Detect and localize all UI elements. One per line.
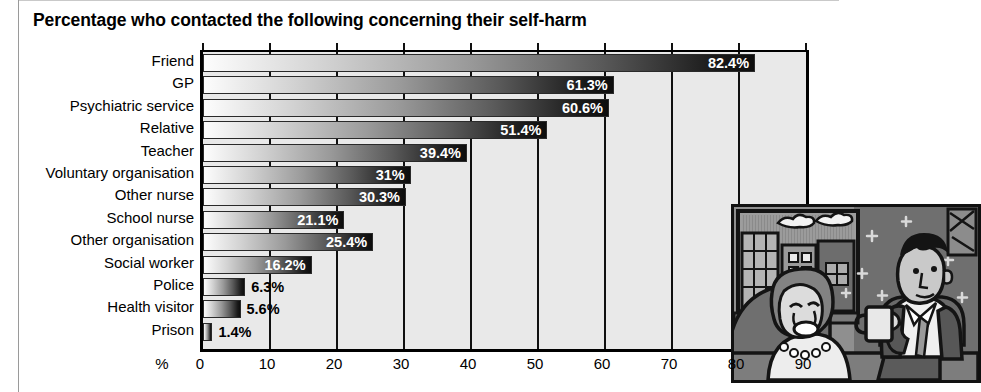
bar-row: 6.3% [203,278,806,296]
bar-value-label: 5.6% [247,300,280,318]
category-label-health-visitor: Health visitor [8,298,194,316]
bar-value-label: 21.1% [203,211,344,229]
axis-unit-label: % [142,355,182,372]
page-title: Percentage who contacted the following c… [33,10,587,31]
category-label-gp: GP [8,74,194,92]
bar-value-label: 16.2% [203,256,312,274]
bar-row: 61.3% [203,76,806,94]
bar-row: 82.4% [203,54,806,72]
plot-inner: 82.4%61.3%60.6%51.4%39.4%31%30.3%21.1%25… [203,52,806,349]
axis-tick-30 [403,43,405,50]
bar-row: 1.4% [203,323,806,341]
axis-tick-80 [738,43,740,50]
bar-value-label: 82.4% [203,54,755,72]
x-tick-label-40: 40 [448,355,488,372]
axis-tick-0 [202,43,204,50]
bar-value-label: 1.4% [218,323,251,341]
bar-prison [203,323,212,341]
category-axis-labels: FriendGPPsychiatric serviceRelativeTeach… [8,50,194,347]
x-tick-label-0: 0 [180,355,220,372]
bar-value-label: 30.3% [203,188,406,206]
category-label-other-nurse: Other nurse [8,186,194,204]
category-label-teacher: Teacher [8,142,194,160]
x-tick-label-30: 30 [381,355,421,372]
bar-health-visitor [203,300,241,318]
x-tick-label-50: 50 [515,355,555,372]
category-label-other-organisation: Other organisation [8,231,194,249]
x-tick-label-10: 10 [247,355,287,372]
axis-tick-50 [537,43,539,50]
bar-row: 39.4% [203,144,806,162]
category-label-friend: Friend [8,52,194,70]
bar-row: 25.4% [203,233,806,251]
axis-tick-20 [336,43,338,50]
x-tick-label-60: 60 [582,355,622,372]
bar-row: 31% [203,166,806,184]
plot-area: 82.4%61.3%60.6%51.4%39.4%31%30.3%21.1%25… [200,50,809,352]
x-tick-label-80: 80 [716,355,756,372]
bar-row: 60.6% [203,99,806,117]
bar-value-label: 39.4% [203,144,467,162]
x-tick-label-90: 90 [783,355,823,372]
bar-value-label: 25.4% [203,233,373,251]
bar-row: 5.6% [203,300,806,318]
category-label-psychiatric-service: Psychiatric service [8,97,194,115]
bar-value-label: 60.6% [203,99,609,117]
axis-tick-70 [671,43,673,50]
bar-row: 16.2% [203,256,806,274]
x-tick-label-20: 20 [314,355,354,372]
bar-row: 51.4% [203,121,806,139]
bar-police [203,278,245,296]
x-tick-label-70: 70 [649,355,689,372]
axis-tick-10 [269,43,271,50]
category-label-social-worker: Social worker [8,254,194,272]
axis-tick-90 [805,43,807,50]
category-label-relative: Relative [8,119,194,137]
category-label-voluntary-organisation: Voluntary organisation [8,164,194,182]
bar-row: 30.3% [203,188,806,206]
figure-top-rule [18,0,839,1]
category-label-police: Police [8,276,194,294]
bar-value-label: 51.4% [203,121,547,139]
category-label-prison: Prison [8,321,194,339]
value-axis-labels: % 0102030405060708090 [0,355,839,379]
bar-row: 21.1% [203,211,806,229]
axis-tick-60 [604,43,606,50]
bar-value-label: 31% [203,166,411,184]
axis-tick-40 [470,43,472,50]
bar-value-label: 61.3% [203,76,614,94]
bar-value-label: 6.3% [251,278,284,296]
category-label-school-nurse: School nurse [8,209,194,227]
